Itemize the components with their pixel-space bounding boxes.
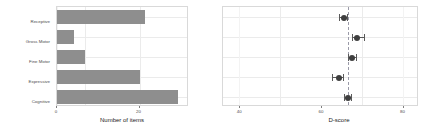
x-tick-mark-right-40 xyxy=(239,106,240,108)
point-gross-motor xyxy=(354,35,360,41)
error-cap-low-expressive xyxy=(332,74,333,81)
estimate-row xyxy=(223,7,417,27)
y-axis-labels: Receptive Gross Motor Fine Motor Express… xyxy=(0,6,53,106)
error-cap-high-gross-motor xyxy=(364,34,365,41)
y-axis-label-fine-motor: Fine Motor xyxy=(0,60,50,64)
y-axis-label-receptive: Receptive xyxy=(0,20,50,24)
bar-row xyxy=(57,47,187,67)
panel-number-of-items xyxy=(56,6,188,106)
point-cognitive xyxy=(345,95,351,101)
y-axis-label-expressive: Expressive xyxy=(0,80,50,84)
point-fine-motor xyxy=(349,55,355,61)
x-tick-label-left-20: 20 xyxy=(136,109,141,114)
bar-gross-motor xyxy=(57,30,74,44)
x-tick-mark-right-60 xyxy=(321,106,322,108)
bar-row xyxy=(57,27,187,47)
estimate-row xyxy=(223,47,417,67)
error-cap-high-expressive xyxy=(343,74,344,81)
panel-d-score xyxy=(222,6,418,106)
x-axis-title-right: D-score xyxy=(328,117,349,123)
bar-row xyxy=(57,67,187,87)
estimate-row xyxy=(223,67,417,87)
error-cap-high-cognitive xyxy=(351,94,352,101)
y-axis-label-cognitive: Cognitive xyxy=(0,100,50,104)
error-cap-high-fine-motor xyxy=(356,54,357,61)
bar-fine-motor xyxy=(57,50,85,64)
x-axis-title-left: Number of items xyxy=(100,117,144,123)
point-expressive xyxy=(336,75,342,81)
point-receptive xyxy=(341,15,347,21)
x-tick-label-left-0: 0 xyxy=(55,109,57,114)
x-tick-mark-left-0 xyxy=(56,106,57,108)
error-cap-low-receptive xyxy=(339,14,340,21)
x-tick-label-right-40: 40 xyxy=(237,109,242,114)
bar-row xyxy=(57,87,187,107)
figure-root: Receptive Gross Motor Fine Motor Express… xyxy=(0,0,436,130)
estimate-row xyxy=(223,27,417,47)
estimate-row xyxy=(223,87,417,107)
error-cap-low-gross-motor xyxy=(352,34,353,41)
bar-row xyxy=(57,7,187,27)
x-tick-mark-right-80 xyxy=(403,106,404,108)
x-tick-label-right-60: 60 xyxy=(318,109,323,114)
error-cap-high-receptive xyxy=(347,14,348,21)
y-axis-label-gross-motor: Gross Motor xyxy=(0,40,50,44)
bar-receptive xyxy=(57,10,145,24)
bar-expressive xyxy=(57,70,140,84)
bar-cognitive xyxy=(57,90,178,104)
x-tick-label-right-80: 80 xyxy=(400,109,405,114)
x-tick-mark-left-20 xyxy=(139,106,140,108)
